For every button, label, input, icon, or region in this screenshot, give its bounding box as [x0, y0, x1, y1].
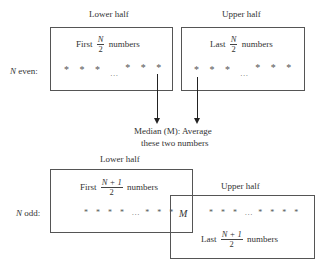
arrow-line-left	[157, 74, 158, 118]
odd-lower-stars: * * * * ... * * *	[84, 208, 176, 217]
even-upper-half-title: Upper half	[222, 9, 261, 19]
ellipsis: ...	[132, 209, 140, 217]
stars-right: * * * *	[258, 208, 301, 217]
stars-left: * * *	[64, 64, 104, 75]
prefix-text: First	[76, 39, 93, 49]
odd-upper-stars: * * * ... * * * *	[209, 208, 301, 217]
median-caption-line2: these two numbers	[141, 138, 209, 148]
fraction: N2	[230, 35, 238, 54]
arrow-down-icon	[154, 118, 160, 124]
even-row-label: N even:	[10, 66, 38, 76]
fraction-denominator: 2	[231, 45, 235, 54]
even-lower-half-title: Lower half	[89, 9, 129, 19]
odd-upper-half-title: Upper half	[221, 181, 260, 191]
median-caption-line1: Median (M): Average	[134, 126, 212, 136]
even-lower-half-desc: First N2 numbers	[76, 35, 140, 54]
suffix-text: numbers	[127, 182, 158, 192]
ellipsis: ...	[111, 70, 119, 78]
even-lower-stars: * * * ... * * *	[64, 64, 165, 75]
even-label-text: even:	[16, 66, 38, 76]
suffix-text: numbers	[109, 39, 140, 49]
arrow-down-icon	[194, 118, 200, 124]
stars-left: * * *	[209, 208, 240, 217]
suffix-text: numbers	[247, 234, 278, 244]
fraction-denominator: 2	[230, 240, 234, 249]
ellipsis: ...	[241, 70, 249, 78]
fraction: N + 12	[101, 178, 123, 197]
stars-left: * * *	[194, 64, 234, 75]
odd-row-label: N odd:	[16, 208, 40, 218]
odd-upper-half-desc: Last N + 12 numbers	[201, 230, 278, 249]
odd-lower-half-title: Lower half	[100, 154, 140, 164]
ellipsis: ...	[245, 209, 253, 217]
odd-label-text: odd:	[22, 208, 40, 218]
stars-left: * * * *	[84, 208, 127, 217]
fraction: N2	[97, 35, 105, 54]
even-lower-half-box: First N2 numbers * * * ... * * *	[50, 27, 173, 91]
prefix-text: First	[80, 182, 97, 192]
even-upper-half-desc: Last N2 numbers	[210, 35, 273, 54]
fraction-denominator: 2	[110, 188, 114, 197]
suffix-text: numbers	[242, 39, 273, 49]
even-upper-stars: * * * ... * * *	[194, 64, 295, 75]
fraction-denominator: 2	[98, 45, 102, 54]
odd-upper-half-box: M * * * ... * * * * Last N + 12 numbers	[170, 195, 315, 259]
arrow-line-right	[197, 77, 198, 118]
odd-lower-half-desc: First N + 12 numbers	[80, 178, 158, 197]
prefix-text: Last	[210, 39, 226, 49]
median-label: M	[179, 208, 187, 219]
even-upper-half-box: Last N2 numbers * * * ... * * *	[181, 27, 305, 91]
prefix-text: Last	[201, 234, 217, 244]
fraction: N + 12	[221, 230, 243, 249]
stars-right: * * *	[125, 62, 165, 73]
stars-right: * * *	[255, 62, 295, 73]
